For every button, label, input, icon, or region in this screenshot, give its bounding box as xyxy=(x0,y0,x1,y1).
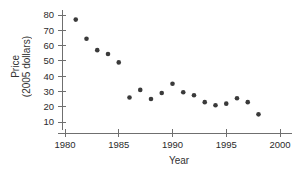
data-point xyxy=(73,17,78,22)
data-point xyxy=(106,52,111,57)
y-tick-label: 60 xyxy=(43,40,54,51)
x-tick-label: 1995 xyxy=(216,139,237,150)
x-tick-label: 1980 xyxy=(54,139,75,150)
data-point xyxy=(213,103,218,108)
y-tick-label: 70 xyxy=(43,25,54,36)
x-tick-label: 1985 xyxy=(108,139,129,150)
y-tick-label: 30 xyxy=(43,86,54,97)
data-point xyxy=(256,112,261,117)
y-tick-label: 20 xyxy=(43,101,54,112)
data-point xyxy=(170,81,175,86)
data-point xyxy=(127,95,132,100)
x-tick-label: 2000 xyxy=(269,139,290,150)
chart-figure: Price (2005 dollars) 1020304050607080 19… xyxy=(0,0,306,176)
y-tick-label: 40 xyxy=(43,71,54,82)
data-point xyxy=(149,97,154,102)
data-point xyxy=(181,90,186,95)
x-tick-label: 1990 xyxy=(162,139,183,150)
data-point xyxy=(138,88,143,93)
data-point xyxy=(95,48,100,53)
data-points xyxy=(73,17,260,116)
scatter-plot: 1020304050607080 19801985199019952000 xyxy=(0,0,306,176)
data-point xyxy=(84,36,89,41)
data-point xyxy=(192,93,197,98)
y-tick-label: 10 xyxy=(43,116,54,127)
y-axis-ticks: 1020304050607080 xyxy=(43,9,66,127)
data-point xyxy=(224,101,229,106)
data-point xyxy=(245,100,250,105)
data-point xyxy=(116,60,121,65)
x-axis-label: Year xyxy=(0,155,306,166)
data-point xyxy=(235,96,240,101)
data-point xyxy=(159,91,164,96)
y-tick-label: 80 xyxy=(43,9,54,20)
x-axis-label-text: Year xyxy=(117,155,189,166)
data-point xyxy=(202,100,207,105)
y-tick-label: 50 xyxy=(43,55,54,66)
x-axis-ticks: 19801985199019952000 xyxy=(54,129,290,150)
